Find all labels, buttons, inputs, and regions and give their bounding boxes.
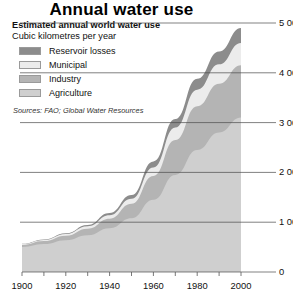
y-axis-label: 2 000 (279, 166, 293, 177)
x-axis-label: 1940 (90, 280, 130, 291)
x-axis-label: 2000 (221, 280, 261, 291)
chart-plot-area (0, 0, 293, 299)
y-axis-label: 0 (279, 266, 293, 277)
x-axis-label: 1980 (177, 280, 217, 291)
x-axis-label: 1960 (133, 280, 173, 291)
y-axis-label: 4 000 (279, 67, 293, 78)
y-axis-label: 5 000 (279, 17, 293, 28)
x-axis-label: 1920 (46, 280, 86, 291)
y-axis-label: 3 000 (279, 117, 293, 128)
water-use-chart-figure: Annual water use Estimated annual world … (0, 0, 293, 299)
x-axis-label: 1900 (2, 280, 42, 291)
y-axis-label: 1 000 (279, 216, 293, 227)
